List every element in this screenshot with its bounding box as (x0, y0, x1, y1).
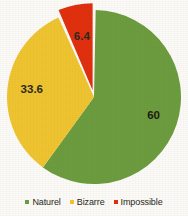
pie-label-naturel: 60 (147, 109, 160, 121)
pie-chart: 60 33.6 6.4 Naturel Bizarre Impossible (0, 0, 188, 216)
pie-plot-area: 60 33.6 6.4 (0, 0, 188, 192)
legend-swatch-naturel (25, 200, 29, 204)
pie-label-bizarre: 33.6 (21, 83, 43, 95)
legend-item-naturel[interactable]: Naturel (25, 198, 60, 207)
legend-item-impossible[interactable]: Impossible (114, 198, 163, 207)
pie-svg: 60 33.6 6.4 (0, 0, 188, 192)
legend-label-bizarre: Bizarre (77, 198, 105, 207)
legend-label-naturel: Naturel (32, 198, 60, 207)
legend-swatch-bizarre (70, 200, 74, 204)
legend-item-bizarre[interactable]: Bizarre (70, 198, 105, 207)
chart-legend: Naturel Bizarre Impossible (0, 193, 188, 211)
legend-label-impossible: Impossible (121, 198, 163, 207)
pie-label-impossible: 6.4 (74, 30, 91, 42)
legend-swatch-impossible (114, 200, 118, 204)
